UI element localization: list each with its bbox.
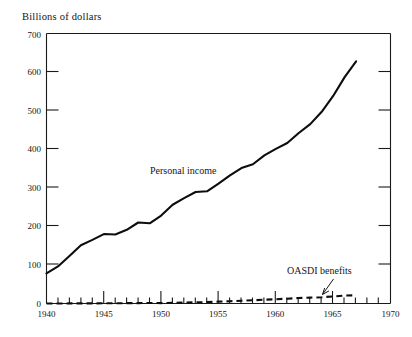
arrow-head	[323, 288, 329, 295]
x-label-1955: 1955	[209, 309, 228, 319]
annotation-personal-income: Personal income	[150, 165, 217, 176]
oasdi-annotation-arrow	[323, 279, 334, 295]
line-chart-plot: 700 600 500 400 300 200 100 0	[0, 0, 412, 337]
x-label-1965: 1965	[324, 309, 343, 319]
plot-frame	[47, 34, 391, 304]
y-axis-ticks	[47, 72, 59, 265]
y-label-100: 100	[28, 260, 42, 270]
chart-figure: Billions of dollars	[0, 0, 412, 337]
y-axis-ticks-right	[379, 72, 391, 265]
x-label-1960: 1960	[266, 309, 285, 319]
y-label-700: 700	[28, 30, 42, 40]
arrow-shaft	[323, 279, 334, 295]
x-label-1945: 1945	[95, 309, 114, 319]
x-label-1970: 1970	[382, 309, 401, 319]
y-label-200: 200	[28, 221, 42, 231]
x-axis-tick-labels: 1940 1945 1950 1955 1960 1965 1970	[38, 309, 401, 319]
y-label-400: 400	[28, 144, 42, 154]
x-label-1940: 1940	[38, 309, 57, 319]
y-axis-tick-labels: 700 600 500 400 300 200 100 0	[28, 30, 42, 309]
y-label-300: 300	[28, 183, 42, 193]
y-label-0: 0	[37, 299, 42, 309]
y-label-500: 500	[28, 106, 42, 116]
y-label-600: 600	[28, 67, 42, 77]
annotation-oasdi-benefits: OASDI benefits	[287, 265, 352, 276]
x-label-1950: 1950	[152, 309, 171, 319]
